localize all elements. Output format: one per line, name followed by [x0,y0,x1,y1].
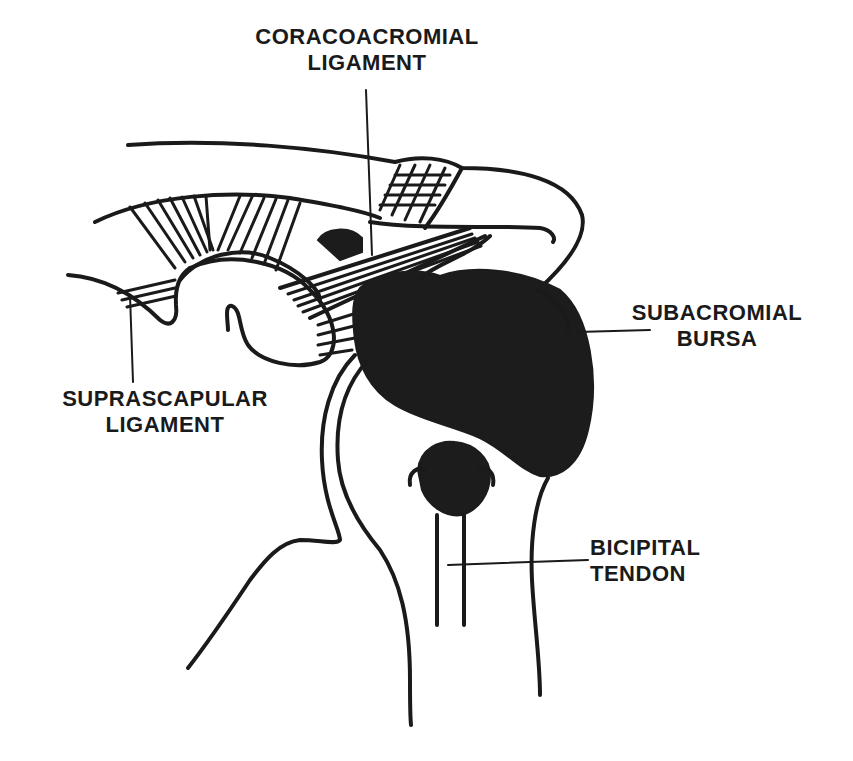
label-suprascapular-ligament: SUPRASCAPULAR LIGAMENT [30,386,300,438]
subacromial-bursa-shape [318,230,593,477]
label-line: CORACOACROMIAL [232,24,502,50]
label-line: LIGAMENT [232,50,502,76]
humeral-head [410,442,494,516]
label-line: TENDON [590,561,750,587]
shoulder-drawing [0,0,853,761]
label-bicipital-tendon: BICIPITAL TENDON [590,535,750,587]
anatomy-diagram: CORACOACROMIAL LIGAMENT SUBACROMIAL BURS… [0,0,853,761]
leader-coracoacromial [366,90,372,255]
label-subacromial-bursa: SUBACROMIAL BURSA [602,300,832,352]
leader-suprascapular [130,295,133,382]
label-coracoacromial-ligament: CORACOACROMIAL LIGAMENT [232,24,502,76]
label-line: BURSA [602,326,832,352]
coracoacromial-ligament-upper-fibers [380,165,450,222]
acromion-outline [128,143,583,290]
label-line: BICIPITAL [590,535,750,561]
bicipital-tendon-shape [437,515,464,625]
glenoid-outline [68,259,334,365]
label-line: SUPRASCAPULAR [30,386,300,412]
label-line: LIGAMENT [30,412,300,438]
label-line: SUBACROMIAL [602,300,832,326]
leader-bicipital [448,560,588,565]
